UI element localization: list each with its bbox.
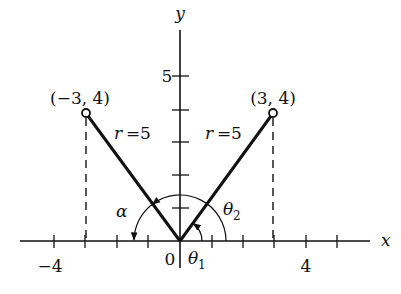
coordinate-diagram: x −4 4 y 5 0 (−3, 4) (3, 4) r = 5 r = 5 … — [0, 0, 401, 294]
theta1-subscript: 1 — [198, 258, 206, 272]
radius-val-right: 5 — [231, 123, 242, 143]
angle-arc-theta1 — [193, 223, 202, 241]
radius-var-right: r — [205, 123, 214, 143]
x-axis — [20, 235, 370, 248]
radius-label-left: r = 5 — [114, 123, 151, 143]
point-label-left: (−3, 4) — [50, 88, 110, 108]
radius-eq-left: = — [126, 123, 140, 143]
y-axis-label: y — [174, 3, 185, 23]
x-axis-label: x — [381, 230, 391, 250]
angle-label-theta1: θ 1 — [188, 248, 206, 272]
x-tick-label-neg4: −4 — [37, 256, 62, 276]
radius-label-right: r = 5 — [205, 123, 242, 143]
angle-label-alpha: α — [116, 201, 128, 221]
radius-eq-right: = — [217, 123, 231, 143]
y-tick-label-5: 5 — [162, 66, 173, 86]
theta2-symbol: θ — [223, 199, 233, 219]
radius-var-left: r — [114, 123, 123, 143]
radius-val-left: 5 — [140, 123, 151, 143]
point-marker-3-4 — [269, 109, 277, 117]
angle-arc-alpha — [134, 204, 152, 240]
origin-label: 0 — [165, 249, 176, 269]
point-marker-neg3-4 — [82, 109, 90, 117]
theta2-subscript: 2 — [233, 209, 241, 223]
theta1-symbol: θ — [188, 248, 198, 268]
angle-label-theta2: θ 2 — [223, 199, 241, 223]
point-label-right: (3, 4) — [250, 88, 296, 108]
x-tick-label-4: 4 — [301, 256, 312, 276]
